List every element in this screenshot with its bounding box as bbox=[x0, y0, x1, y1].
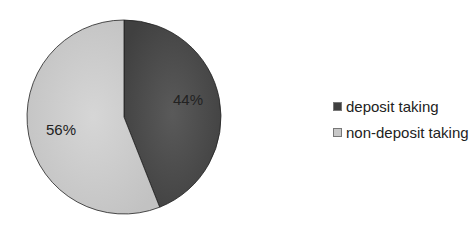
pie-slice-label: 56% bbox=[46, 121, 76, 138]
legend-item-deposit-taking: deposit taking bbox=[333, 93, 469, 119]
pie-slice-label: 44% bbox=[173, 91, 203, 108]
legend-swatch-icon bbox=[333, 128, 342, 137]
legend-label: deposit taking bbox=[346, 98, 439, 115]
legend-swatch-icon bbox=[333, 102, 342, 111]
legend-label: non-deposit taking bbox=[346, 124, 469, 141]
chart-legend: deposit taking non-deposit taking bbox=[333, 93, 469, 145]
legend-item-non-deposit-taking: non-deposit taking bbox=[333, 119, 469, 145]
